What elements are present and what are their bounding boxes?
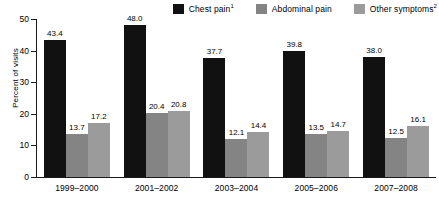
bar-value-label: 14.7: [330, 121, 346, 129]
legend-item-other-symptoms: Other symptoms2: [354, 4, 437, 14]
bar-value-label: 48.0: [127, 15, 143, 23]
x-axis-tick-label: 1999–2000: [37, 182, 117, 196]
y-axis-tick: [31, 145, 36, 146]
bar-group: 39.813.514.7: [276, 19, 356, 177]
bar-value-label: 20.4: [149, 103, 165, 111]
bar-column: 43.4: [44, 19, 66, 177]
y-axis-tick-labels: 01020304050: [0, 0, 29, 199]
bar: [247, 132, 269, 178]
bar: [305, 134, 327, 177]
bar-value-label: 37.7: [207, 48, 223, 56]
bar-group: 43.413.717.2: [37, 19, 117, 177]
bar: [225, 139, 247, 177]
bar: [327, 131, 349, 177]
bar-column: 13.5: [305, 19, 327, 177]
legend-footnote-mark-other-symptoms: 2: [434, 3, 437, 9]
bar-group-bars: 39.813.514.7: [276, 19, 356, 177]
legend-swatch-abdominal-pain: [256, 4, 267, 14]
bar-value-label: 43.4: [47, 30, 63, 38]
bar: [168, 111, 190, 177]
bar-value-label: 13.7: [69, 124, 85, 132]
x-axis-tick-label: 2005–2006: [276, 182, 356, 196]
x-axis-line: [36, 177, 436, 178]
y-axis-tick: [31, 82, 36, 83]
y-axis-tick: [31, 19, 36, 20]
bar: [124, 25, 146, 177]
bar-chart-figure: Chest pain1 Abdominal pain Other symptom…: [0, 0, 439, 199]
bar-value-label: 16.1: [410, 116, 426, 124]
legend-label-abdominal-pain: Abdominal pain: [272, 4, 332, 14]
legend-text-abdominal-pain: Abdominal pain: [272, 4, 332, 14]
bar-group-bars: 43.413.717.2: [37, 19, 117, 177]
bar: [203, 58, 225, 177]
bar-column: 20.8: [168, 19, 190, 177]
legend-footnote-mark-chest-pain: 1: [230, 3, 233, 9]
bar-groups: 43.413.717.248.020.420.837.712.114.439.8…: [37, 19, 436, 177]
bar-group-bars: 38.012.516.1: [356, 19, 436, 177]
bar-value-label: 39.8: [286, 41, 302, 49]
bar-value-label: 38.0: [366, 47, 382, 55]
bar-column: 12.5: [385, 19, 407, 177]
y-axis-tick: [31, 51, 36, 52]
bar: [146, 113, 168, 177]
y-axis-tick-label: 50: [3, 15, 29, 24]
bar-column: 39.8: [283, 19, 305, 177]
x-axis-tick-labels: 1999–20002001–20022003–20042005–20062007…: [37, 182, 436, 196]
chart-legend: Chest pain1 Abdominal pain Other symptom…: [0, 0, 439, 18]
y-axis-tick-label: 30: [3, 78, 29, 87]
legend-label-chest-pain: Chest pain1: [189, 4, 234, 14]
y-axis-tick-label: 40: [3, 47, 29, 56]
bar-value-label: 17.2: [91, 113, 107, 121]
bar: [385, 138, 407, 178]
legend-text-other-symptoms: Other symptoms: [370, 4, 434, 14]
bar-column: 13.7: [66, 19, 88, 177]
bar-column: 48.0: [124, 19, 146, 177]
bar-column: 12.1: [225, 19, 247, 177]
bar-value-label: 12.1: [229, 129, 245, 137]
bar-column: 20.4: [146, 19, 168, 177]
bar-column: 14.4: [247, 19, 269, 177]
bar-value-label: 12.5: [388, 128, 404, 136]
y-axis-tick-label: 0: [3, 173, 29, 182]
bar: [283, 51, 305, 177]
legend-text-chest-pain: Chest pain: [189, 4, 231, 14]
bar: [66, 134, 88, 177]
bar: [88, 123, 110, 177]
bar-column: 14.7: [327, 19, 349, 177]
bar-value-label: 13.5: [308, 124, 324, 132]
bar-group: 38.012.516.1: [356, 19, 436, 177]
legend-swatch-chest-pain: [173, 4, 184, 14]
y-axis-tick-label: 10: [3, 141, 29, 150]
bar: [407, 126, 429, 177]
bar-column: 17.2: [88, 19, 110, 177]
y-axis-tick-label: 20: [3, 110, 29, 119]
legend-item-chest-pain: Chest pain1: [173, 4, 234, 14]
legend-item-abdominal-pain: Abdominal pain: [256, 4, 332, 14]
x-axis-tick-label: 2007–2008: [356, 182, 436, 196]
bar: [363, 57, 385, 177]
bar-value-label: 14.4: [251, 122, 267, 130]
bar-group: 48.020.420.8: [117, 19, 197, 177]
y-axis-tick: [31, 114, 36, 115]
bar-column: 16.1: [407, 19, 429, 177]
bar-column: 38.0: [363, 19, 385, 177]
bar: [44, 40, 66, 177]
bar-value-label: 20.8: [171, 101, 187, 109]
bar-group: 37.712.114.4: [197, 19, 277, 177]
legend-label-other-symptoms: Other symptoms2: [370, 4, 437, 14]
bar-group-bars: 37.712.114.4: [197, 19, 277, 177]
x-axis-tick-label: 2003–2004: [197, 182, 277, 196]
legend-swatch-other-symptoms: [354, 4, 365, 14]
bar-column: 37.7: [203, 19, 225, 177]
bar-group-bars: 48.020.420.8: [117, 19, 197, 177]
x-axis-tick-label: 2001–2002: [117, 182, 197, 196]
